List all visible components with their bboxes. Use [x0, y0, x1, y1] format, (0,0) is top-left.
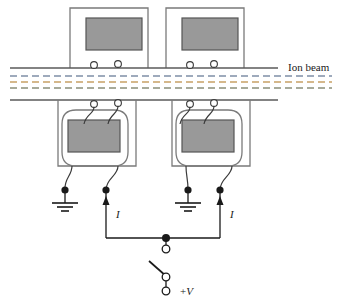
switch-upper-terminal[interactable]: [162, 245, 170, 253]
assembly-top-left: [70, 8, 148, 68]
current-arrow-left: [103, 196, 110, 205]
terminal-bottom-right-a: [187, 101, 194, 108]
wire-bottom-right-ground: [186, 166, 188, 190]
ion-beam: [10, 76, 332, 88]
assembly-top-right: [166, 8, 244, 68]
diagram-canvas: [0, 0, 338, 306]
voltage-terminal[interactable]: [162, 287, 170, 295]
voltage-symbol: V: [186, 285, 193, 297]
terminal-top-left-a: [91, 62, 98, 69]
wire-bottom-left-ground: [65, 166, 72, 190]
wire-bottom-right-current: [220, 166, 232, 190]
switch-assembly[interactable]: [149, 234, 170, 295]
electrode-top-left: [86, 18, 142, 50]
voltage-label: +V: [180, 285, 193, 297]
wire-bottom-left-current: [106, 166, 118, 190]
ion-optics-diagram: Ion beam I I +V: [0, 0, 338, 306]
electrode-bottom-left: [68, 120, 120, 152]
terminal-bottom-left-b: [115, 100, 122, 107]
ground-symbol-right: [175, 186, 201, 211]
terminal-bottom-left-a: [91, 101, 98, 108]
terminal-top-left-b: [115, 61, 122, 68]
electrode-bottom-right: [182, 120, 234, 152]
electrode-top-right: [182, 18, 238, 50]
terminal-bottom-right-b: [211, 100, 218, 107]
terminal-top-right-a: [187, 62, 194, 69]
switch-pivot-terminal[interactable]: [162, 273, 170, 281]
assembly-bottom-right: [172, 100, 250, 166]
current-label-left: I: [116, 208, 120, 220]
ion-beam-label: Ion beam: [288, 61, 329, 73]
current-label-right: I: [230, 208, 234, 220]
terminal-top-right-b: [211, 61, 218, 68]
assembly-bottom-left: [58, 100, 136, 166]
current-arrow-right: [217, 196, 224, 205]
ground-symbol-left: [52, 186, 78, 211]
